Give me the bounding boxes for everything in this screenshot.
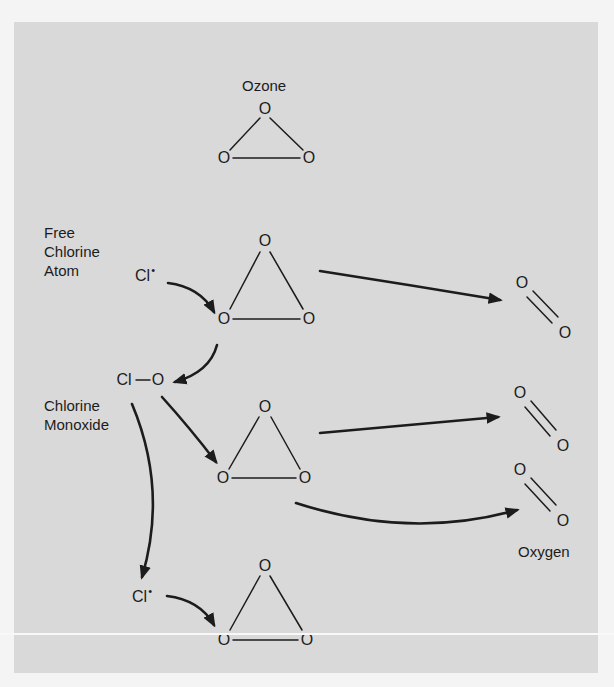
oxygen-2-bonds [525, 401, 556, 436]
figure: Ozone Free Chlorine Atom Chlorine Monoxi… [0, 0, 614, 687]
atom-o: O [152, 372, 164, 388]
ozone-3-bonds [230, 576, 302, 640]
atom-o: O [303, 150, 315, 166]
radical-dot-icon: • [151, 264, 155, 276]
atom-o: O [514, 385, 526, 401]
reaction-arrows-and-bonds [0, 0, 614, 687]
atom-o: O [217, 470, 229, 486]
chlorine-monoxide-label: Chlorine Monoxide [44, 396, 109, 434]
oxygen-label: Oxygen [518, 542, 570, 561]
atom-o: O [303, 311, 315, 327]
atom-o: O [299, 470, 311, 486]
atom-o: O [557, 513, 569, 529]
atom-o: O [259, 558, 271, 574]
ozone-2-bonds [229, 417, 300, 478]
atom-o: O [259, 399, 271, 415]
free-chlorine-atom-label: Free Chlorine Atom [44, 223, 100, 280]
oxygen-1-bonds [527, 291, 558, 323]
atom-o: O [514, 462, 526, 478]
atom-o: O [557, 438, 569, 454]
ozone-1-bonds [230, 252, 303, 319]
chlorine-radical: Cl• [132, 589, 152, 606]
arrow-ozone-2-to-oxygen-3 [296, 503, 517, 523]
label-line: Chlorine [44, 242, 100, 261]
label-line: Free [44, 223, 100, 242]
arrow-cl-to-ozone-3 [167, 596, 214, 625]
atom-cl: Cl [135, 267, 150, 284]
ozone-label: Ozone [242, 76, 286, 95]
atom-o: O [218, 150, 230, 166]
atom-o: O [559, 325, 571, 341]
arrow-clo-to-cl-radical [132, 404, 153, 577]
atom-o: O [516, 275, 528, 291]
arrow-ozone-1-to-oxygen-1 [320, 271, 500, 300]
arrow-cl-to-ozone-1 [168, 283, 214, 312]
atom-o: O [259, 101, 271, 117]
label-line: Chlorine [44, 396, 109, 415]
radical-dot-icon: • [148, 585, 152, 597]
scan-artifact-line [0, 633, 614, 635]
atom-cl: Cl [132, 588, 147, 605]
arrow-ozone-1-to-clo [175, 345, 217, 382]
arrow-clo-to-ozone-2 [162, 397, 216, 462]
atom-o: O [218, 311, 230, 327]
ozone-reference-bonds [230, 118, 303, 158]
atom-cl: Cl [116, 372, 131, 388]
oxygen-3-bonds [525, 478, 556, 511]
label-line: Atom [44, 261, 100, 280]
label-line: Monoxide [44, 415, 109, 434]
atom-o: O [259, 233, 271, 249]
chlorine-radical: Cl• [135, 268, 155, 285]
arrow-ozone-2-to-oxygen-2 [320, 417, 498, 433]
